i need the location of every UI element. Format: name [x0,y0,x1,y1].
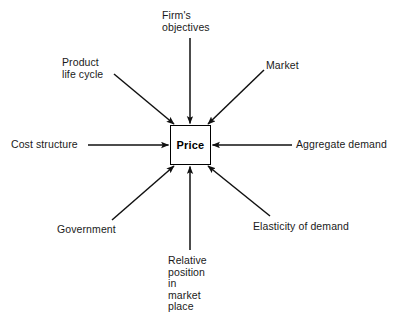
arrow-market [208,70,264,124]
label-market: Market [266,60,299,72]
label-aggregate-demand: Aggregate demand [296,139,387,151]
center-node-price: Price [170,125,211,165]
arrow-product-life-cycle [114,74,174,124]
label-product-life-cycle: Product life cycle [62,57,103,80]
arrow-government [112,166,174,220]
label-government: Government [57,224,116,236]
label-relative-position: Relative position in market place [168,255,207,313]
label-firms-objectives: Firm's objectives [162,10,210,33]
arrow-elasticity-of-demand [208,166,270,216]
diagram-canvas: Price Firm's objectives Product life cyc… [0,0,399,328]
label-cost-structure: Cost structure [11,139,78,151]
label-elasticity-of-demand: Elasticity of demand [253,221,349,233]
center-node-label: Price [177,139,205,151]
